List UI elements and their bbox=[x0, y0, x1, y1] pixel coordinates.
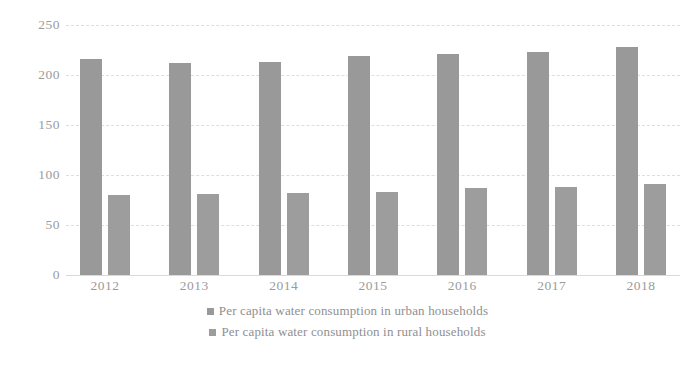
legend-item[interactable]: Per capita water consumption in urban ho… bbox=[207, 303, 488, 319]
legend-swatch-icon bbox=[209, 329, 216, 336]
legend-label: Per capita water consumption in rural ho… bbox=[221, 324, 485, 340]
x-axis-tick-label: 2014 bbox=[245, 278, 323, 298]
y-axis-tick-label: 200 bbox=[38, 67, 60, 83]
bar-rural-2014 bbox=[287, 193, 309, 275]
bar-rural-2013 bbox=[197, 194, 219, 275]
bar-group bbox=[245, 25, 323, 275]
bar-rural-2016 bbox=[465, 188, 487, 275]
x-axis-tick-label: 2012 bbox=[66, 278, 144, 298]
legend-item[interactable]: Per capita water consumption in rural ho… bbox=[209, 324, 485, 340]
y-axis-tick-label: 150 bbox=[38, 117, 60, 133]
bar-group bbox=[513, 25, 591, 275]
bar-rural-2017 bbox=[555, 187, 577, 275]
bar-group bbox=[66, 25, 144, 275]
x-axis-tick-label: 2017 bbox=[513, 278, 591, 298]
legend-swatch-icon bbox=[207, 308, 214, 315]
x-axis-tick-label: 2016 bbox=[423, 278, 501, 298]
x-axis-tick-label: 2015 bbox=[334, 278, 412, 298]
bar-urban-2015 bbox=[348, 56, 370, 275]
chart-legend: Per capita water consumption in urban ho… bbox=[0, 303, 695, 340]
bar-urban-2012 bbox=[80, 59, 102, 275]
x-axis-tick-label: 2013 bbox=[155, 278, 233, 298]
bar-urban-2016 bbox=[437, 54, 459, 275]
bar-urban-2014 bbox=[259, 62, 281, 275]
y-axis-tick-label: 50 bbox=[46, 217, 61, 233]
bar-rural-2018 bbox=[644, 184, 666, 275]
bar-group bbox=[155, 25, 233, 275]
legend-label: Per capita water consumption in urban ho… bbox=[219, 303, 488, 319]
bar-group bbox=[334, 25, 412, 275]
bar-rural-2015 bbox=[376, 192, 398, 275]
bar-urban-2017 bbox=[527, 52, 549, 275]
bar-group bbox=[423, 25, 501, 275]
axis-baseline bbox=[66, 275, 680, 276]
x-axis: 2012201320142015201620172018 bbox=[66, 278, 680, 298]
bar-urban-2013 bbox=[169, 63, 191, 275]
bar-group bbox=[602, 25, 680, 275]
bar-rural-2012 bbox=[108, 195, 130, 275]
y-axis-tick-label: 100 bbox=[38, 167, 60, 183]
bars-layer bbox=[66, 25, 680, 275]
x-axis-tick-label: 2018 bbox=[602, 278, 680, 298]
y-axis: 050100150200250 bbox=[14, 25, 60, 275]
bar-chart: 050100150200250 201220132014201520162017… bbox=[0, 0, 695, 365]
y-axis-tick-label: 0 bbox=[53, 267, 60, 283]
bar-urban-2018 bbox=[616, 47, 638, 275]
y-axis-tick-label: 250 bbox=[38, 17, 60, 33]
plot-area: 050100150200250 201220132014201520162017… bbox=[0, 0, 695, 300]
